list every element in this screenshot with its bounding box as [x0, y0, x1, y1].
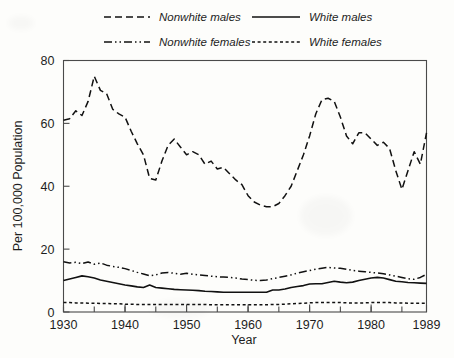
figure-container: Nonwhite males White males Nonwhite fema… — [0, 0, 454, 358]
chart-legend: Nonwhite males White males Nonwhite fema… — [104, 11, 382, 48]
y-tick-label: 40 — [41, 180, 55, 194]
legend-label-white-males: White males — [309, 11, 373, 23]
plot-frame — [64, 61, 427, 313]
series-line-white-males — [64, 276, 427, 292]
y-tick-label: 60 — [41, 117, 55, 131]
legend-entry-white-females: White females — [252, 36, 382, 48]
x-tick-label: 1970 — [296, 318, 324, 332]
legend-entry-white-males: White males — [252, 11, 373, 23]
legend-label-white-females: White females — [309, 36, 382, 48]
x-axis-title: Year — [231, 333, 256, 347]
x-tick-label: 1950 — [173, 318, 201, 332]
x-tick-label: 1940 — [111, 318, 139, 332]
y-tick-label: 80 — [41, 54, 55, 68]
x-tick-label: 1980 — [357, 318, 385, 332]
x-axis: 1930194019501960197019801989 — [50, 305, 441, 333]
legend-entry-nonwhite-males: Nonwhite males — [104, 11, 241, 23]
x-tick-label: 1930 — [50, 318, 78, 332]
data-series-group — [64, 76, 427, 305]
series-line-white-females — [64, 303, 427, 305]
legend-label-nonwhite-males: Nonwhite males — [159, 11, 241, 23]
x-tick-label: 1960 — [234, 318, 262, 332]
legend-label-nonwhite-females: Nonwhite females — [159, 36, 251, 48]
y-tick-label: 20 — [41, 243, 55, 257]
legend-entry-nonwhite-females: Nonwhite females — [104, 36, 251, 48]
series-line-nonwhite-males — [64, 76, 427, 206]
x-tick-label: 1989 — [413, 318, 441, 332]
line-chart: Nonwhite males White males Nonwhite fema… — [0, 0, 454, 358]
y-axis-title: Per 100,000 Population — [11, 121, 25, 252]
